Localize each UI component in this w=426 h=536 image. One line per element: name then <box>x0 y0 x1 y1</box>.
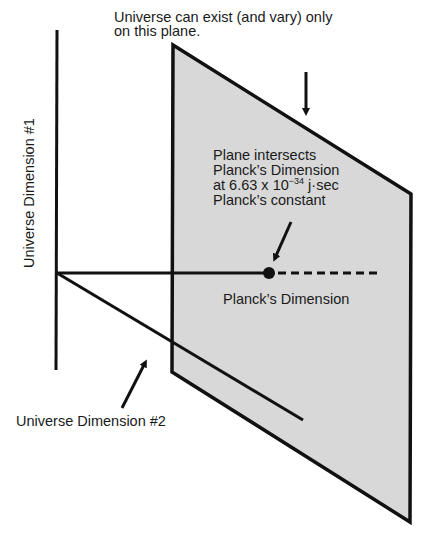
dimension1-label: Universe Dimension #1 <box>22 118 37 268</box>
intersect-caption-line4: Planck’s constant <box>213 193 326 208</box>
constant-exponent: −34 <box>289 176 304 186</box>
dimension1-axis <box>56 30 57 370</box>
intersect-caption-line3: at 6.63 x 10−34 j·sec <box>213 178 339 193</box>
dimension2-label: Universe Dimension #2 <box>16 414 166 429</box>
intersect-caption-line2: Planck’s Dimension <box>213 163 339 178</box>
plane-caption-line2: on this plane. <box>114 24 200 39</box>
intersect-caption-line1: Plane intersects <box>213 148 316 163</box>
universe-plane <box>172 45 411 522</box>
arrow-to-dimension2 <box>122 363 145 408</box>
planck-dimension-label: Planck’s Dimension <box>223 292 349 307</box>
intersection-point <box>263 267 275 279</box>
constant-mantissa: at 6.63 x 10 <box>213 177 289 193</box>
constant-unit: j·sec <box>304 177 339 193</box>
diagram-canvas <box>0 0 426 536</box>
